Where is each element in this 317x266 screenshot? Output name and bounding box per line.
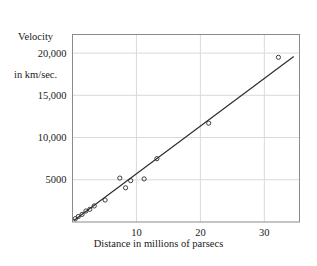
gridlines bbox=[73, 35, 300, 223]
y-tick-label: 20,000 bbox=[38, 48, 67, 59]
y-tick-label: 10,000 bbox=[38, 132, 67, 143]
x-axis-tick-labels: 102030 bbox=[131, 227, 269, 238]
y-tick-label: 15,000 bbox=[38, 90, 67, 101]
x-tick-label: 10 bbox=[131, 227, 142, 238]
x-tick-label: 30 bbox=[259, 227, 270, 238]
velocity-distance-chart: Velocity in km/sec. 500010,00015,00020,0… bbox=[0, 0, 317, 266]
y-tick-label: 5000 bbox=[46, 174, 67, 185]
y-axis-tick-labels: 500010,00015,00020,000 bbox=[38, 48, 67, 186]
data-point bbox=[207, 121, 211, 125]
fit-line-segment bbox=[74, 56, 294, 220]
x-axis-title: Distance in millions of parsecs bbox=[0, 238, 317, 251]
x-tick-label: 20 bbox=[195, 227, 206, 238]
data-point bbox=[123, 186, 127, 190]
data-point bbox=[142, 177, 146, 181]
data-point bbox=[129, 179, 133, 183]
plot-frame bbox=[73, 35, 300, 223]
data-point bbox=[103, 198, 107, 202]
data-point bbox=[276, 55, 280, 59]
regression-line bbox=[74, 56, 294, 220]
plot-area: 500010,00015,00020,000 102030 bbox=[0, 0, 317, 266]
